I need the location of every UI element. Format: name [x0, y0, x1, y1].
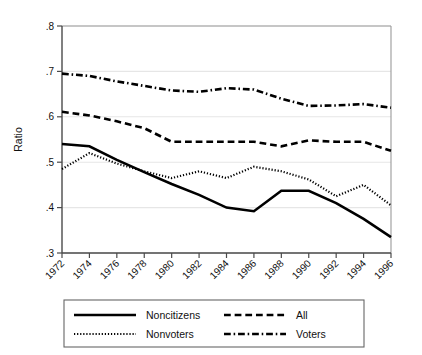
legend-label-all: All	[296, 309, 308, 321]
y-tick-label: .5	[46, 157, 55, 168]
x-tick-label: 1988	[262, 257, 286, 281]
y-tick-label: .3	[46, 248, 55, 259]
chart-figure: .3.4.5.6.7.8 197219741976197819801982198…	[0, 0, 422, 355]
y-tick-label: .4	[46, 202, 55, 213]
x-axis: 1972197419761978198019821984198619881990…	[43, 253, 396, 281]
x-tick-label: 1972	[43, 257, 67, 281]
plot-background	[62, 26, 391, 253]
x-tick-label: 1992	[317, 257, 341, 281]
x-tick-label: 1978	[125, 257, 149, 281]
x-tick-label: 1976	[98, 257, 122, 281]
y-tick-label: .6	[46, 111, 55, 122]
x-tick-label: 1984	[207, 257, 231, 281]
y-tick-label: .7	[46, 66, 55, 77]
x-tick-label: 1986	[235, 257, 259, 281]
legend-label-nonvoters: Nonvoters	[146, 328, 194, 340]
x-tick-label: 1994	[344, 257, 368, 281]
y-axis-label: Ratio	[12, 127, 24, 152]
y-axis-title: Ratio	[12, 127, 24, 152]
legend-label-voters: Voters	[296, 328, 326, 340]
x-tick-label: 1980	[153, 257, 177, 281]
y-axis: .3.4.5.6.7.8	[46, 21, 62, 259]
legend-label-noncitizens: Noncitizens	[146, 309, 200, 321]
line-chart: .3.4.5.6.7.8 197219741976197819801982198…	[0, 0, 422, 355]
y-tick-label: .8	[46, 21, 55, 32]
x-tick-label: 1974	[70, 257, 94, 281]
x-tick-label: 1990	[290, 257, 314, 281]
chart-legend: NoncitizensAllNonvotersVoters	[64, 300, 364, 347]
x-tick-label: 1982	[180, 257, 204, 281]
x-tick-label: 1996	[372, 257, 396, 281]
